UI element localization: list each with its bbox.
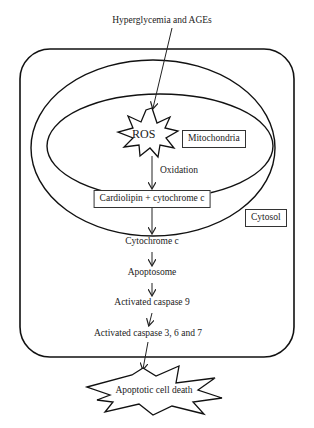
arrow-caspase367-to-death xyxy=(143,342,148,369)
arrow-caspase9-to-caspase367 xyxy=(149,313,152,325)
ros-label: ROS xyxy=(132,128,155,140)
mitochondria-label: Mitochondria xyxy=(182,130,246,148)
cytosol-label: Cytosol xyxy=(245,209,287,227)
step-apoptosome: Apoptosome xyxy=(128,268,177,278)
cardiolipin-cytochrome-box: Cardiolipin + cytochrome c xyxy=(94,190,211,208)
step-caspase-3-6-7: Activated caspase 3, 6 and 7 xyxy=(94,329,202,339)
step-caspase-9: Activated caspase 9 xyxy=(114,298,189,308)
apoptosis-pathway-diagram: Hyperglycemia and AGEs ROS Mitochondria … xyxy=(0,0,314,428)
outcome-label: Apoptotic cell death xyxy=(115,386,192,396)
step-cytochrome-c: Cytochrome c xyxy=(125,237,179,247)
input-label: Hyperglycemia and AGEs xyxy=(112,16,212,26)
arrow-input-to-ros xyxy=(153,28,172,108)
oxidation-label: Oxidation xyxy=(160,166,198,176)
